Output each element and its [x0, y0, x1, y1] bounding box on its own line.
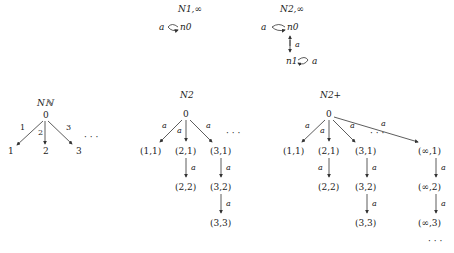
- node: (∞,2): [418, 182, 441, 192]
- graph-title: N1,∞: [177, 4, 202, 14]
- edge-label: 3: [66, 123, 71, 132]
- ellipsis: · · ·: [370, 128, 384, 138]
- edge-label: a: [441, 199, 446, 208]
- edge-label: a: [320, 126, 325, 135]
- ellipsis: · · ·: [84, 132, 98, 142]
- graph-title: N2,∞: [279, 4, 304, 14]
- edge-label: a: [177, 126, 182, 135]
- edge-label: a: [441, 163, 446, 172]
- edge-label: a: [372, 163, 377, 172]
- edge-label: a: [162, 121, 167, 130]
- node: 1: [8, 146, 14, 156]
- node: (∞,1): [418, 146, 441, 156]
- node: (2,2): [175, 182, 196, 192]
- node: (3,3): [210, 218, 231, 228]
- node: 2: [43, 146, 49, 156]
- node: (3,2): [210, 182, 231, 192]
- self-loop-icon: [168, 25, 178, 31]
- graph-n2-inf: N2,∞ a n0 a n1 a: [261, 4, 317, 66]
- graph-n2: N2 0 a a a · · · (1,1) (2,1) (3,1) a (2,…: [140, 90, 240, 228]
- edge-label: a: [372, 199, 377, 208]
- graph-n2-plus: N2+ 0 a a a a · · · (1,1) (2,1) (3,1) (∞…: [283, 90, 446, 246]
- edge-label: 2: [38, 128, 43, 137]
- edge-label: a: [318, 163, 323, 172]
- node: (2,2): [318, 182, 339, 192]
- edge-label: 1: [20, 123, 25, 132]
- edge-label: a: [226, 199, 231, 208]
- edge-label: a: [381, 119, 386, 128]
- node: (3,1): [210, 146, 231, 156]
- edge-label: a: [191, 163, 196, 172]
- node-root: 0: [43, 110, 49, 120]
- self-loop-icon: [298, 58, 308, 65]
- node: (∞,3): [418, 218, 441, 228]
- diagram-canvas: N1,∞ a n0 N2,∞ a n0 a n1 a Nℕ 0 1 2 3 1 …: [0, 0, 454, 253]
- node: (3,3): [355, 218, 376, 228]
- graph-title: Nℕ: [36, 98, 55, 108]
- loop-label: a: [312, 56, 317, 66]
- node-root: 0: [326, 109, 332, 119]
- node: (1,1): [283, 146, 304, 156]
- edge-label: a: [350, 121, 355, 130]
- graph-title: N2+: [319, 90, 341, 100]
- node: (3,2): [355, 182, 376, 192]
- loop-label: a: [159, 22, 164, 32]
- node-root: 0: [183, 109, 189, 119]
- node: (1,1): [140, 146, 161, 156]
- graph-n1-inf: N1,∞ a n0: [159, 4, 202, 32]
- graph-nN: Nℕ 0 1 2 3 1 2 3 · · ·: [8, 98, 98, 156]
- loop-label: a: [261, 22, 266, 32]
- node: (2,1): [318, 146, 339, 156]
- node-n0: n0: [287, 22, 299, 32]
- edge-label: a: [226, 163, 231, 172]
- ellipsis: · · ·: [226, 128, 240, 138]
- graph-title: N2: [179, 90, 194, 100]
- self-loop-icon: [272, 25, 285, 31]
- edge-label: a: [295, 40, 300, 49]
- node: 3: [76, 146, 82, 156]
- node: (3,1): [355, 146, 376, 156]
- node: (2,1): [175, 146, 196, 156]
- node-n0: n0: [180, 22, 192, 32]
- ellipsis: · · ·: [428, 236, 442, 246]
- edge-label: a: [206, 121, 211, 130]
- edge-label: a: [305, 121, 310, 130]
- node-n1: n1: [286, 56, 298, 66]
